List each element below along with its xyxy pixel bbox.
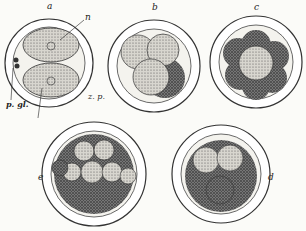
- panel-b: [108, 20, 200, 112]
- panel-d: [172, 125, 270, 223]
- illustration: [0, 0, 306, 231]
- label-b: b: [152, 3, 158, 12]
- label-e: e: [38, 173, 43, 182]
- label-c: c: [254, 3, 259, 12]
- label-a: a: [47, 2, 52, 11]
- label-n: n: [85, 13, 91, 22]
- panel-c: [210, 16, 302, 108]
- label-zp: z. p.: [88, 93, 105, 101]
- panel-e: [42, 122, 146, 226]
- label-d: d: [268, 173, 274, 182]
- label-pgl: p. gl.: [6, 100, 29, 108]
